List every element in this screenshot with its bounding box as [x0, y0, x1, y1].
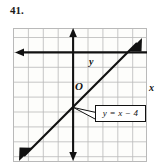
equation-callout-box: y = x − 4 [95, 105, 146, 122]
coordinate-graph: y x O [13, 28, 147, 162]
x-axis-label: x [149, 83, 154, 93]
exercise-figure: 41. [0, 0, 155, 167]
problem-number: 41. [10, 4, 24, 16]
equation-label: y = x − 4 [103, 109, 138, 118]
y-axis-label: y [89, 57, 93, 67]
origin-label: O [75, 81, 83, 92]
graph-canvas [13, 28, 147, 162]
